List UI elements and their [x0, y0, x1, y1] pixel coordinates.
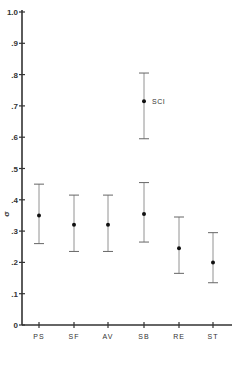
mean-point [142, 99, 146, 103]
y-tick-label: .8 [11, 71, 18, 80]
axes: σ [2, 10, 232, 325]
annotation-label: SCI [152, 98, 165, 105]
y-tick-label: 0 [14, 321, 19, 330]
error-bar-main-av [103, 195, 113, 251]
error-bar-main-st [208, 233, 218, 283]
x-tick-label: PS [33, 333, 44, 340]
error-bar-main-ps [34, 184, 44, 243]
x-tick-label: RE [173, 333, 185, 340]
x-tick-label: SF [69, 333, 80, 340]
error-bar-main-sb [139, 183, 149, 242]
x-tick-label: AV [103, 333, 114, 340]
y-tick-label: .6 [11, 133, 18, 142]
y-tick-label: .2 [11, 258, 18, 267]
x-tick-label: SB [138, 333, 149, 340]
error-bar-main-re [174, 217, 184, 273]
annotations: SCI [152, 98, 165, 105]
y-tick-label: .4 [11, 196, 18, 205]
y-tick-label: .9 [11, 39, 18, 48]
x-tick-label: ST [208, 333, 219, 340]
mean-point [106, 223, 110, 227]
mean-point [37, 213, 41, 217]
error-bar-main-sf [69, 195, 79, 251]
y-tick-label: .7 [11, 102, 18, 111]
y-tick-label: 1.0 [7, 8, 19, 17]
y-tick-label: .3 [11, 227, 18, 236]
y-tick-label: .1 [11, 290, 18, 299]
mean-point [177, 246, 181, 250]
mean-point [72, 223, 76, 227]
mean-point [142, 212, 146, 216]
error-bar-sci-sb [139, 73, 149, 139]
mean-point [211, 260, 215, 264]
error-bars [34, 73, 218, 283]
y-axis-label: σ [2, 211, 11, 217]
error-bar-chart: σ 0.1.2.3.4.5.6.7.8.91.0 PSSFAVSBREST SC… [0, 0, 239, 376]
y-tick-label: .5 [11, 165, 18, 174]
